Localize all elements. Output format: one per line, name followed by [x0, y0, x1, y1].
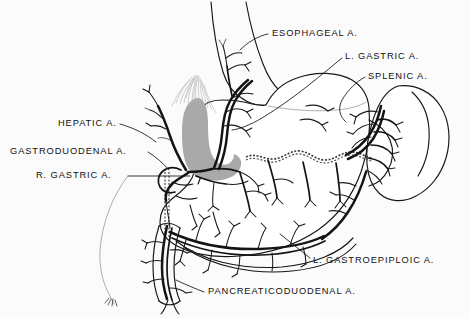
leader-hepatic	[120, 124, 156, 142]
hepatic-artery	[143, 85, 186, 170]
label-hepatic-artery: HEPATIC A.	[58, 119, 117, 128]
faint-vessel-tail	[100, 176, 128, 306]
label-gastroduodenal-artery: GASTRODUODENAL A.	[10, 147, 127, 156]
spleen	[367, 86, 449, 201]
label-esophageal-artery: ESOPHAGEAL A.	[272, 29, 358, 38]
anatomical-figure: ESOPHAGEAL A. L. GASTRIC A. SPLENIC A. H…	[0, 0, 469, 319]
label-pancreaticoduodenal-artery: PANCREATICODUODENAL A.	[208, 287, 356, 296]
label-left-gastroepiploic-artery: L. GASTROEPIPLOIC A.	[313, 256, 434, 265]
leader-gastroduodenal	[148, 152, 169, 170]
label-left-gastric-artery: L. GASTRIC A.	[345, 52, 419, 61]
esophagus	[211, 2, 281, 105]
label-splenic-artery: SPLENIC A.	[368, 72, 428, 81]
anatomy-illustration	[0, 0, 469, 319]
label-right-gastric-artery: R. GASTRIC A.	[36, 171, 112, 180]
